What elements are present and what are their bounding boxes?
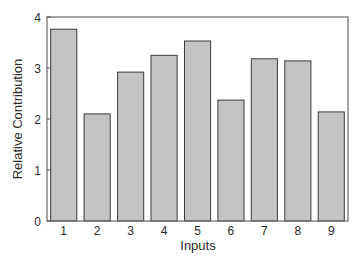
y-tick-label: 1	[34, 164, 41, 178]
bar-chart: 01234 123456789 Inputs Relative Contribu…	[0, 0, 363, 261]
bars-group	[51, 29, 345, 221]
bar-4	[151, 55, 177, 221]
y-axis-ticks: 01234	[34, 11, 51, 229]
x-tick-label: 8	[294, 224, 301, 238]
y-tick-label: 3	[34, 62, 41, 76]
bar-1	[51, 29, 77, 221]
x-tick-label: 2	[94, 224, 101, 238]
x-axis-ticks: 123456789	[60, 224, 335, 238]
x-axis-label: Inputs	[180, 238, 216, 253]
x-tick-label: 6	[228, 224, 235, 238]
bar-3	[118, 72, 144, 221]
y-tick-label: 4	[34, 11, 41, 25]
y-tick-label: 0	[34, 215, 41, 229]
bar-7	[251, 59, 277, 221]
bar-8	[285, 61, 311, 221]
x-tick-label: 7	[261, 224, 268, 238]
bar-6	[218, 100, 244, 221]
bar-9	[318, 112, 344, 221]
bar-2	[84, 114, 110, 221]
x-tick-label: 5	[194, 224, 201, 238]
y-axis-label: Relative Contribution	[10, 59, 25, 180]
x-tick-label: 3	[127, 224, 134, 238]
x-tick-label: 1	[60, 224, 67, 238]
x-tick-label: 4	[161, 224, 168, 238]
x-tick-label: 9	[328, 224, 335, 238]
bar-5	[185, 41, 211, 221]
y-tick-label: 2	[34, 113, 41, 127]
